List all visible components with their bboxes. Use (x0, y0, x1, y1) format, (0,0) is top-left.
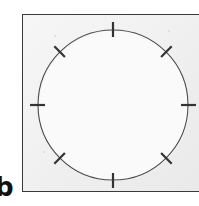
tick-marks-group (30, 22, 196, 188)
tick-upper-left (54, 46, 65, 57)
figure-label: b (0, 174, 14, 200)
diagram-svg (0, 0, 199, 206)
tick-lower-right (161, 153, 172, 164)
tick-lower-left (54, 153, 65, 164)
tick-upper-right (161, 46, 172, 57)
figure-container: b (0, 0, 199, 206)
